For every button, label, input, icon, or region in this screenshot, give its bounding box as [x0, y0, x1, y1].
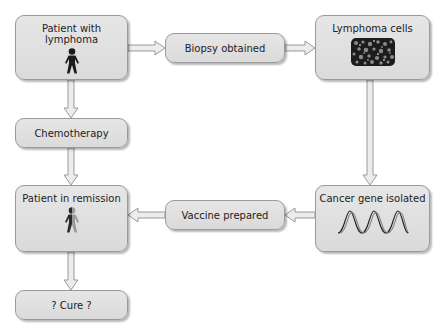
- node-label: Biopsy obtained: [185, 43, 266, 54]
- arrow-cells-to-gene: [363, 80, 377, 185]
- arrow-gene-to-vaccine: [285, 208, 315, 222]
- half-faded-person-icon: [64, 207, 80, 233]
- person-icon: [64, 48, 80, 74]
- node-cure: ? Cure ?: [15, 290, 128, 320]
- node-label: Cancer gene isolated: [316, 193, 429, 204]
- node-label: Lymphoma cells: [316, 23, 429, 34]
- arrow-chemo-to-remission: [64, 148, 78, 185]
- arrow-patient-to-chemo: [64, 80, 78, 118]
- node-label: ? Cure ?: [51, 300, 91, 311]
- arrow-vaccine-to-remission: [128, 208, 165, 222]
- node-cancer-gene-isolated: Cancer gene isolated: [315, 185, 430, 252]
- cells-micrograph-icon: [351, 38, 395, 66]
- node-patient-in-remission: Patient in remission: [15, 185, 128, 252]
- node-vaccine-prepared: Vaccine prepared: [165, 200, 285, 230]
- node-chemotherapy: Chemotherapy: [15, 118, 128, 148]
- node-patient-with-lymphoma: Patient with lymphoma: [15, 15, 128, 80]
- node-label: Patient with lymphoma: [16, 23, 127, 45]
- dna-helix-icon: [336, 209, 410, 235]
- node-biopsy-obtained: Biopsy obtained: [165, 33, 285, 63]
- node-label: Patient in remission: [16, 193, 127, 204]
- node-label: Vaccine prepared: [182, 210, 269, 221]
- arrow-patient-to-biopsy: [128, 41, 165, 55]
- node-label: Chemotherapy: [34, 128, 108, 139]
- node-lymphoma-cells: Lymphoma cells: [315, 15, 430, 80]
- arrow-remission-to-cure: [64, 252, 78, 290]
- arrow-biopsy-to-cells: [285, 41, 315, 55]
